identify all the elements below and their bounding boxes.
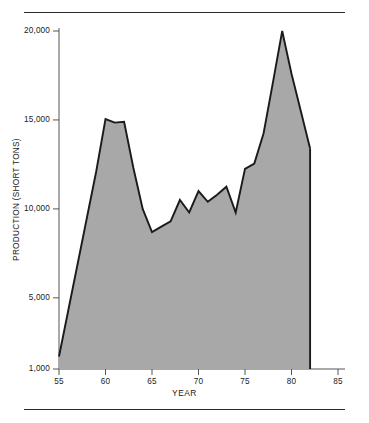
y-axis-title: PRODUCTION (SHORT TONS) [12, 130, 21, 270]
x-tick-label: 75 [225, 377, 265, 386]
x-tick-label: 65 [132, 377, 172, 386]
y-tick-label: 10,000 [0, 204, 50, 213]
y-tick-label: 20,000 [0, 26, 50, 35]
x-axis-title: YEAR [0, 388, 369, 398]
y-axis-ticks [53, 31, 59, 369]
y-tick-label: 15,000 [0, 115, 50, 124]
x-tick-label: 60 [86, 377, 126, 386]
x-tick-label: 55 [39, 377, 79, 386]
figure-container: 1,0005,00010,00015,00020,000 55606570758… [0, 0, 369, 423]
area-chart-svg [0, 0, 369, 423]
x-tick-label: 70 [179, 377, 219, 386]
x-tick-label: 80 [272, 377, 312, 386]
chart-plot-area [0, 0, 369, 423]
x-tick-label: 85 [318, 377, 358, 386]
x-axis-ticks [59, 369, 338, 375]
y-tick-label: 5,000 [0, 293, 50, 302]
y-tick-label: 1,000 [0, 364, 50, 373]
